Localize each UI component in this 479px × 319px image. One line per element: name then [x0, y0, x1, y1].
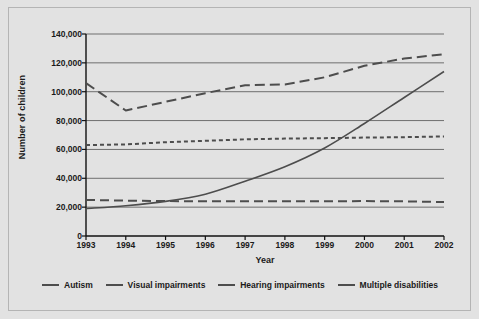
series-line-visual-impairments [86, 200, 444, 202]
gridlines-group [86, 34, 444, 207]
legend-line-icon [338, 284, 355, 287]
x-tick-label: 2002 [435, 240, 454, 250]
series-line-hearing-impairments [86, 136, 444, 145]
y-tick-label: 0 [36, 231, 82, 241]
y-tick-label: 120,000 [36, 58, 82, 68]
x-axis-title: Year [86, 255, 444, 265]
y-tick-label: 60,000 [36, 144, 82, 154]
series-lines-group [86, 54, 444, 208]
y-axis-title: Number of children [17, 57, 27, 177]
y-tick-label: 20,000 [36, 202, 82, 212]
y-tick-label: 80,000 [36, 116, 82, 126]
legend-line-icon [42, 284, 59, 287]
x-tick-label: 1995 [156, 240, 175, 250]
axis-lines-group [86, 34, 444, 236]
x-tick-label: 1996 [196, 240, 215, 250]
legend-item-label: Autism [64, 280, 93, 290]
legend-line-icon [106, 284, 123, 287]
legend-item-visual-impairments[interactable]: Visual impairments [106, 280, 206, 290]
legend-item-label: Multiple disabilities [360, 280, 438, 290]
y-tick-label: 140,000 [36, 29, 82, 39]
chart-figure: 020,00040,00060,00080,000100,000120,0001… [0, 0, 479, 319]
x-tick-label: 2000 [355, 240, 374, 250]
x-tick-label: 2001 [395, 240, 414, 250]
y-tick-label: 40,000 [36, 173, 82, 183]
legend-item-label: Visual impairments [128, 280, 206, 290]
x-tick-label: 1999 [315, 240, 334, 250]
legend-item-label: Hearing impairments [240, 280, 325, 290]
x-tick-label: 1993 [77, 240, 96, 250]
legend-item-multiple-disabilities[interactable]: Multiple disabilities [338, 280, 438, 290]
chart-legend: Autism Visual impairments Hearing impair… [20, 280, 460, 290]
legend-item-autism[interactable]: Autism [42, 280, 93, 290]
legend-item-hearing-impairments[interactable]: Hearing impairments [218, 280, 325, 290]
x-tick-label: 1994 [116, 240, 135, 250]
y-tick-label: 100,000 [36, 87, 82, 97]
x-tick-label: 1998 [275, 240, 294, 250]
x-tick-label: 1997 [236, 240, 255, 250]
y-axis-ticks: 020,00040,00060,00080,000100,000120,0001… [36, 0, 82, 319]
legend-line-icon [218, 284, 235, 287]
